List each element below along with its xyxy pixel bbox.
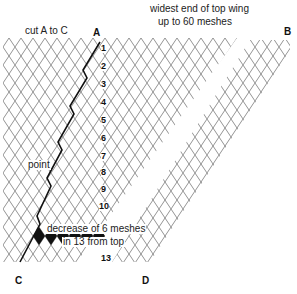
widest-end-label-line1: widest end of top wing: [150, 4, 249, 14]
row-number: 1: [101, 44, 106, 53]
row-number: 13: [101, 254, 111, 263]
row-number: 7: [101, 152, 106, 161]
row-number: 4: [101, 98, 106, 107]
corner-label-c: C: [15, 276, 22, 286]
row-number: 5: [101, 116, 106, 125]
netting-drawing: [0, 0, 297, 294]
corner-label-b: B: [284, 27, 291, 37]
point-label: point: [27, 160, 51, 170]
row-number: 9: [101, 185, 106, 194]
row-number: 10: [99, 202, 109, 211]
row-number: 6: [101, 134, 106, 143]
row-number: 8: [101, 168, 106, 177]
row-number: 2: [101, 62, 106, 71]
mesh-diagram: cut A to C widest end of top wing up to …: [0, 0, 297, 294]
widest-end-label-line2: up to 60 meshes: [158, 17, 232, 27]
corner-label-a: A: [93, 28, 100, 38]
decrease-label-line1: decrease of 6 meshes: [46, 224, 146, 234]
row-number: 3: [101, 80, 106, 89]
corner-label-d: D: [142, 276, 149, 286]
cut-instruction-label: cut A to C: [25, 26, 68, 36]
decrease-label-line2: in 13 from top: [62, 237, 125, 247]
